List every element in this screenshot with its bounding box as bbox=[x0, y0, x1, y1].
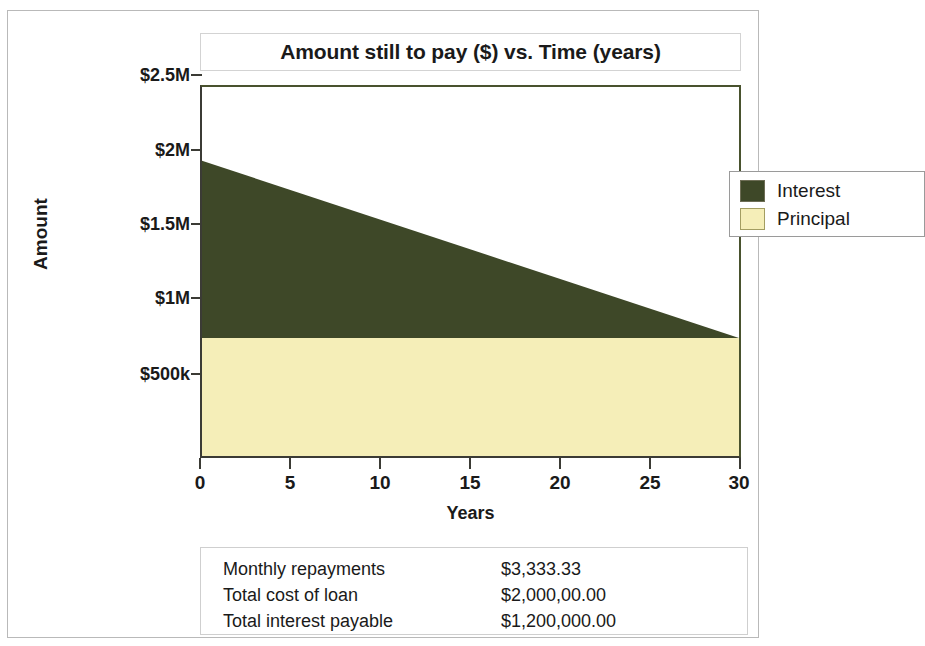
y-tick-mark-1000k bbox=[191, 297, 202, 299]
y-tick-label-2500k: $2.5M bbox=[140, 65, 190, 86]
summary-label-total-cost-of-loan: Total cost of loan bbox=[201, 585, 501, 606]
x-tick-label-10: 10 bbox=[369, 472, 390, 494]
y-axis-title: Amount bbox=[30, 179, 52, 289]
series-area-interest bbox=[202, 161, 739, 338]
legend-item-interest[interactable]: Interest bbox=[740, 177, 924, 205]
chart-legend: Interest Principal bbox=[729, 171, 925, 237]
summary-table: Monthly repayments $3,333.33 Total cost … bbox=[200, 547, 748, 635]
x-tick-mark-5 bbox=[289, 458, 291, 469]
x-tick-label-15: 15 bbox=[459, 472, 480, 494]
x-axis-title: Years bbox=[200, 503, 741, 524]
legend-swatch-principal bbox=[740, 208, 765, 230]
x-tick-label-0: 0 bbox=[195, 472, 206, 494]
y-axis-tick-labels: $2.5M $2M $1.5M $1M $500k bbox=[68, 11, 190, 646]
summary-value-monthly-repayments: $3,333.33 bbox=[501, 559, 581, 580]
x-tick-label-25: 25 bbox=[639, 472, 660, 494]
page-frame: Amount still to pay ($) vs. Time (years)… bbox=[7, 10, 759, 638]
x-tick-label-30: 30 bbox=[728, 472, 749, 494]
y-tick-label-2000k: $2M bbox=[155, 140, 190, 161]
plot-area: Interest Principal bbox=[200, 85, 741, 458]
legend-label-interest: Interest bbox=[777, 180, 840, 202]
x-tick-mark-20 bbox=[559, 458, 561, 469]
x-tick-label-5: 5 bbox=[285, 472, 296, 494]
series-layer bbox=[202, 87, 739, 456]
summary-label-monthly-repayments: Monthly repayments bbox=[201, 559, 501, 580]
y-tick-mark-2000k bbox=[191, 149, 202, 151]
chart-title: Amount still to pay ($) vs. Time (years) bbox=[280, 40, 661, 64]
summary-value-total-interest-payable: $1,200,000.00 bbox=[501, 611, 616, 632]
y-tick-label-1500k: $1.5M bbox=[140, 214, 190, 235]
x-tick-mark-10 bbox=[379, 458, 381, 469]
series-area-principal bbox=[202, 338, 739, 456]
summary-value-total-cost-of-loan: $2,000,00.00 bbox=[501, 585, 606, 606]
y-tick-label-1000k: $1M bbox=[155, 288, 190, 309]
table-row: Total interest payable $1,200,000.00 bbox=[201, 608, 747, 634]
summary-label-total-interest-payable: Total interest payable bbox=[201, 611, 501, 632]
y-tick-mark-500k bbox=[191, 373, 202, 375]
chart-title-box: Amount still to pay ($) vs. Time (years) bbox=[200, 33, 741, 71]
y-tick-mark-1500k bbox=[191, 223, 202, 225]
x-tick-mark-0 bbox=[199, 458, 201, 469]
x-tick-mark-15 bbox=[469, 458, 471, 469]
area-chart-svg bbox=[202, 87, 739, 456]
table-row: Total cost of loan $2,000,00.00 bbox=[201, 582, 747, 608]
legend-label-principal: Principal bbox=[777, 208, 850, 230]
y-tick-mark-2500k bbox=[191, 74, 202, 76]
x-tick-label-20: 20 bbox=[549, 472, 570, 494]
legend-swatch-interest bbox=[740, 180, 765, 202]
legend-item-principal[interactable]: Principal bbox=[740, 205, 924, 233]
y-tick-label-500k: $500k bbox=[140, 364, 190, 385]
x-tick-mark-30 bbox=[739, 458, 741, 469]
x-tick-mark-25 bbox=[649, 458, 651, 469]
table-row: Monthly repayments $3,333.33 bbox=[201, 556, 747, 582]
